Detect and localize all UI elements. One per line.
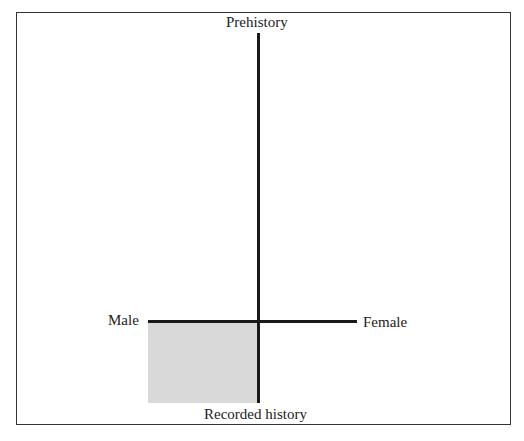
diagram-frame xyxy=(16,12,511,425)
label-recorded-history: Recorded history xyxy=(204,406,307,423)
label-male: Male xyxy=(108,312,139,329)
shaded-quadrant-male-recorded-history xyxy=(148,323,257,403)
horizontal-axis-gender xyxy=(148,320,357,323)
label-female: Female xyxy=(363,314,407,331)
vertical-axis-time xyxy=(257,33,260,403)
label-prehistory: Prehistory xyxy=(226,14,288,31)
